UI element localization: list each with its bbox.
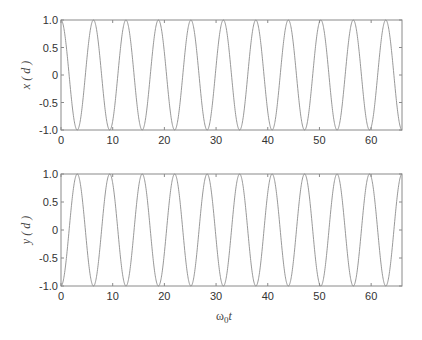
x-tick-label: 0 [58, 290, 64, 302]
plot-x: 1.00.50-0.5-1.0 0102030405060 x ( d ) [19, 14, 402, 146]
x-axis-label: ω0t [216, 309, 232, 325]
plot-x-trace [61, 20, 402, 130]
x-tick-label: 50 [313, 134, 325, 146]
y-tick-label: -0.5 [39, 97, 58, 109]
x-tick-label: 0 [58, 134, 64, 146]
y-tick-label: -1.0 [39, 124, 58, 136]
plot-y-trace [61, 174, 402, 286]
y-tick-label: 0.5 [43, 196, 58, 208]
x-tick-label: 40 [262, 134, 274, 146]
plot-x-yticks: 1.00.50-0.5-1.0 [39, 14, 402, 136]
x-tick-label: 50 [313, 290, 325, 302]
y-tick-label: 0.5 [43, 42, 58, 54]
y-tick-label: -1.0 [39, 280, 58, 292]
x-tick-label: 20 [158, 290, 170, 302]
x-tick-label: 60 [365, 290, 377, 302]
plot-y-xticks: 0102030405060 [58, 174, 377, 302]
x-tick-label: 30 [210, 134, 222, 146]
x-tick-label: 10 [107, 134, 119, 146]
plot-y-ylabel: y ( d ) [19, 216, 33, 245]
y-tick-label: -0.5 [39, 252, 58, 264]
x-tick-label: 40 [262, 290, 274, 302]
x-tick-label: 30 [210, 290, 222, 302]
plot-x-ylabel: x ( d ) [19, 61, 33, 90]
figure: 1.00.50-0.5-1.0 0102030405060 x ( d ) 1.… [0, 0, 422, 340]
y-tick-label: 1.0 [43, 14, 58, 26]
y-tick-label: 1.0 [43, 168, 58, 180]
y-tick-label: 0 [52, 224, 58, 236]
x-tick-label: 20 [158, 134, 170, 146]
time-variable: t [228, 309, 232, 323]
x-tick-label: 60 [365, 134, 377, 146]
omega-symbol: ω [216, 309, 224, 323]
plot-y-yticks: 1.00.50-0.5-1.0 [39, 168, 402, 292]
x-tick-label: 10 [107, 290, 119, 302]
plot-y: 1.00.50-0.5-1.0 0102030405060 y ( d ) ω0… [19, 168, 402, 325]
y-tick-label: 0 [52, 69, 58, 81]
